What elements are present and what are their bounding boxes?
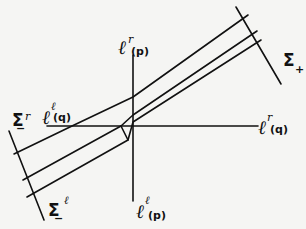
label-sub: (p) [131, 46, 149, 57]
label-sup: ℓ [145, 195, 150, 206]
label-sub: − [16, 123, 25, 134]
label-l-r-q: ℓ r (q) [258, 112, 306, 138]
label-sub: (q) [270, 124, 288, 135]
label-sigma-minus-r: Σ r − [12, 112, 40, 138]
label-sub: − [54, 213, 63, 224]
label-sigma-plus: Σ + [283, 52, 306, 80]
label-l-l-q: ℓ ℓ (q) [42, 104, 82, 128]
label-sigma-minus-l: Σ ℓ − [48, 196, 80, 226]
label-sup: r [128, 34, 133, 45]
label-sub: (p) [148, 210, 166, 221]
label-sub: + [295, 64, 304, 75]
diagram-canvas: ℓ r (p) ℓ ℓ (p) ℓ r (q) ℓ ℓ (q) Σ + Σ r … [0, 0, 306, 229]
kink-segment [121, 126, 128, 140]
label-base: Σ [283, 52, 295, 69]
label-sup: r [25, 111, 30, 122]
label-l-r-p: ℓ r (p) [118, 36, 168, 60]
sigma-minus-boundary [9, 131, 44, 220]
label-sup: r [267, 112, 272, 123]
label-base: ℓ [258, 118, 266, 137]
label-base: ℓ [42, 108, 50, 127]
label-sup: ℓ [64, 195, 69, 206]
label-sub: (q) [53, 112, 71, 123]
label-base: ℓ [118, 38, 126, 57]
label-base: ℓ [136, 202, 144, 221]
label-l-l-p: ℓ ℓ (p) [136, 196, 186, 224]
